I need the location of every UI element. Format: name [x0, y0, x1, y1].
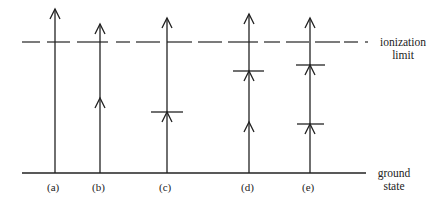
ground-state-label: ground state: [372, 167, 416, 193]
transition-arrow-b: [95, 24, 105, 173]
transition-arrow-c: [151, 18, 183, 173]
ground-text: ground: [372, 167, 416, 180]
state-text: state: [372, 180, 416, 193]
column-label: (c): [159, 181, 171, 193]
ionization-text: ionization: [376, 36, 430, 49]
column-label: (a): [47, 181, 59, 193]
column-label: (b): [92, 181, 105, 193]
transition-arrow-a: [50, 9, 60, 173]
column-label: (e): [302, 181, 314, 193]
transition-arrow-d: [233, 14, 264, 173]
ionization-limit-label: ionization limit: [376, 36, 430, 62]
limit-text: limit: [376, 49, 430, 62]
column-label: (d): [241, 181, 254, 193]
transition-arrow-e: [296, 18, 325, 173]
